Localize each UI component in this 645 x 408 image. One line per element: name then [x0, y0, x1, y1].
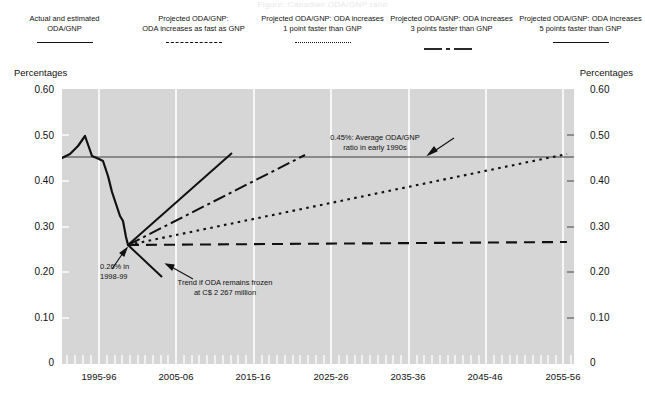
legend-item-actual[interactable]: Actual and estimated ODA/GNP [0, 14, 129, 47]
x-tick-2025-26: 2025-26 [301, 372, 361, 382]
y-tick-right-040: 0.40 [590, 176, 630, 186]
series-1-point-faster [128, 154, 567, 245]
y-tick-left-000: 0 [14, 358, 54, 368]
y-tick-right-010: 0.10 [590, 313, 630, 323]
legend-item-5-points-faster[interactable]: Projected ODA/GNP: ODA increases 5 point… [516, 14, 645, 47]
y-tick-right-030: 0.30 [590, 222, 630, 232]
legend-swatch-dashdot-icon [424, 39, 480, 47]
x-tick-2015-16: 2015-16 [223, 372, 283, 382]
legend-swatch-dashed-icon [166, 39, 222, 47]
page-title: Figure: Canadian ODA/GNP ratio [0, 0, 645, 10]
y-tick-left-040: 0.40 [14, 176, 54, 186]
legend-label: Projected ODA/GNP: ODA increases as fast… [142, 14, 245, 33]
x-tick-2035-36: 2035-36 [378, 372, 438, 382]
legend-swatch-dotted-icon [295, 39, 351, 47]
legend-item-3-points-faster[interactable]: Projected ODA/GNP: ODA increases 3 point… [387, 14, 516, 47]
y-tick-right-060: 0.60 [590, 85, 630, 95]
x-tick-2045-46: 2045-46 [455, 372, 515, 382]
annotation-avg-ratio: 0.45%: Average ODA/GNP ratio in early 19… [300, 133, 450, 152]
legend-item-1-point-faster[interactable]: Projected ODA/GNP: ODA increases 1 point… [258, 14, 387, 47]
y-tick-stubs-right [567, 135, 574, 318]
x-minor-ticks [67, 355, 571, 364]
y-tick-right-000: 0 [590, 358, 630, 368]
right-axis-caption: Percentages [580, 67, 633, 78]
legend-swatch-solid-icon [37, 39, 93, 47]
x-tick-1995-96: 1995-96 [69, 372, 129, 382]
x-tick-2055-56: 2055-56 [533, 372, 593, 382]
legend-label: Actual and estimated ODA/GNP [29, 14, 99, 33]
y-tick-left-010: 0.10 [14, 313, 54, 323]
chart-svg [62, 89, 574, 364]
left-axis-caption: Percentages [14, 67, 67, 78]
legend-item-as-fast-as-gnp[interactable]: Projected ODA/GNP: ODA increases as fast… [129, 14, 258, 47]
series-3-points-faster [128, 155, 305, 245]
y-tick-right-020: 0.20 [590, 267, 630, 277]
chart-legend: Actual and estimated ODA/GNP Projected O… [0, 14, 645, 58]
annotation-frozen-trend: Trend if ODA remains frozen at C$ 2 267 … [160, 278, 290, 297]
annotation-arrows [112, 138, 454, 279]
y-tick-left-050: 0.50 [14, 131, 54, 141]
series-as-fast-as-gnp [128, 242, 567, 245]
y-tick-right-050: 0.50 [590, 131, 630, 141]
y-tick-left-060: 0.60 [14, 85, 54, 95]
legend-label: Projected ODA/GNP: ODA increases 5 point… [519, 14, 642, 33]
y-tick-left-020: 0.20 [14, 267, 54, 277]
legend-label: Projected ODA/GNP: ODA increases 1 point… [261, 14, 384, 33]
legend-label: Projected ODA/GNP: ODA increases 3 point… [390, 14, 513, 33]
legend-swatch-solid-icon [553, 39, 609, 47]
annotation-low-point: 0.26% in 1998-99 [100, 262, 162, 281]
chart-plot-area [62, 89, 574, 364]
gridlines [99, 89, 563, 364]
series-actual-estimated [62, 136, 128, 245]
y-tick-left-030: 0.30 [14, 222, 54, 232]
x-tick-2005-06: 2005-06 [146, 372, 206, 382]
y-tick-stubs [62, 135, 69, 318]
